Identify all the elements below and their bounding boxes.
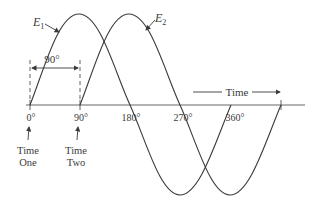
- phase-diagram: 90° E1 E2 Time 0° 90° 180° 270° 360° Tim…: [0, 0, 317, 204]
- time-two-line1: Time: [65, 145, 87, 156]
- time-one-line2: One: [19, 157, 37, 168]
- tick-label-0: 0°: [27, 112, 36, 123]
- tick-label-180: 180°: [122, 112, 141, 123]
- time-label: Time: [226, 86, 249, 98]
- tick-label-360: 360°: [226, 112, 245, 123]
- phase-difference-label: 90°: [44, 53, 59, 65]
- time-two-line2: Two: [67, 157, 86, 168]
- e2-label: E2: [154, 11, 166, 27]
- time-one-arrow: [28, 127, 29, 140]
- e1-label: E1: [32, 15, 44, 31]
- time-two-arrow: [77, 127, 78, 140]
- tick-label-90: 90°: [74, 112, 88, 123]
- time-one-line1: Time: [17, 145, 39, 156]
- e1-pointer: [45, 24, 59, 32]
- e2-pointer: [146, 20, 155, 30]
- tick-label-270: 270°: [174, 112, 193, 123]
